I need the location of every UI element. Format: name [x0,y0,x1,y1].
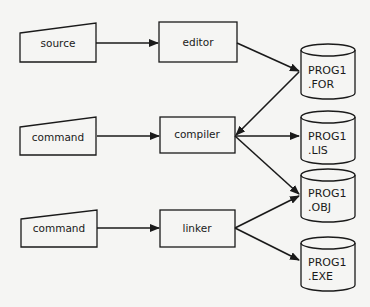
arrow-linker-exe [235,228,299,260]
file-ext: .LIS [308,144,328,157]
file-name: PROG1 [308,256,346,269]
process-editor: editor [159,22,237,62]
process-linker-label: linker [183,222,213,234]
file-prog1-exe: PROG1 .EXE [301,237,355,291]
input-command-linker: command [21,210,97,247]
file-ext: .FOR [308,78,334,91]
file-name: PROG1 [308,64,346,77]
file-prog1-for: PROG1 .FOR [301,44,355,99]
process-linker: linker [160,210,235,247]
input-command-compiler: command [20,117,96,155]
file-prog1-obj: PROG1 .OBJ [301,169,355,222]
input-command-label: command [33,222,85,234]
file-name: PROG1 [308,187,346,200]
process-editor-label: editor [183,36,215,48]
input-source-label: source [41,37,76,49]
arrow-editor-for [237,43,299,71]
input-source: source [20,23,96,62]
file-prog1-lis: PROG1 .LIS [301,111,355,164]
file-name: PROG1 [308,130,346,143]
arrow-for-compiler [236,72,299,135]
arrow-compiler-obj [235,136,299,194]
file-ext: .OBJ [308,201,331,214]
input-command-label: command [32,131,84,143]
file-ext: .EXE [308,270,333,283]
program-development-diagram: source command command editor compiler l… [0,0,370,307]
arrow-linker-obj [235,196,299,228]
process-compiler-label: compiler [174,128,220,140]
process-compiler: compiler [160,117,235,153]
